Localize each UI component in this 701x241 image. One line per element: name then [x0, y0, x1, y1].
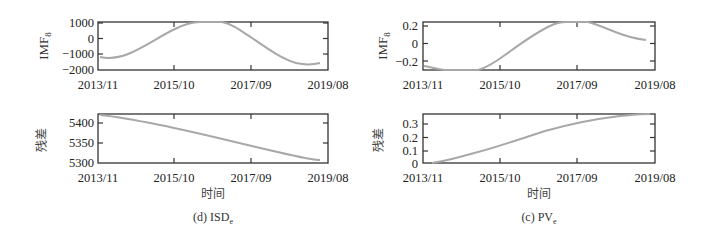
xtick-label: 2019/08	[635, 78, 676, 92]
xtick-label: 2015/10	[480, 171, 521, 185]
ytick-label: 5400	[69, 116, 94, 130]
xlabel-time: 时间	[527, 187, 551, 201]
xtick-label: 2015/10	[154, 171, 195, 185]
panel-c-residual-plot: 0.3 0.2 0.1 0 2013/11 2015/10 2017/09 20…	[372, 114, 675, 201]
xtick-label: 2019/08	[635, 171, 676, 185]
ytick-label: 0.3	[402, 117, 418, 131]
residual-curve	[100, 115, 320, 160]
ytick-label: 5350	[69, 136, 94, 150]
plot-frame	[423, 22, 655, 70]
xtick-label: 2019/08	[308, 78, 349, 92]
svg-text:IMF8: IMF8	[36, 32, 53, 60]
ylabel-residual: 残差	[35, 128, 49, 152]
ytick-label: 0.1	[402, 144, 418, 158]
xtick-label: 2013/11	[78, 171, 119, 185]
panel-d-imf8-plot: 1000 0 −1000 −2000 2013/11 2015/10 2017/…	[36, 16, 348, 92]
ytick-label: 0	[412, 37, 418, 51]
xtick-label: 2015/10	[480, 78, 521, 92]
ytick-label: 5300	[69, 156, 94, 170]
ylabel-imf8: IMF8	[375, 32, 392, 60]
svg-text:IMF8: IMF8	[375, 32, 392, 60]
xlabel-time: 时间	[201, 187, 225, 201]
ytick-label: 0.2	[402, 131, 418, 145]
xtick-label: 2013/11	[403, 171, 444, 185]
xtick-label: 2013/11	[403, 78, 444, 92]
ytick-label: −0.2	[395, 55, 418, 69]
ytick-label: −1000	[62, 47, 94, 61]
imf8-curve	[424, 22, 646, 70]
panel-d-residual-plot: 5400 5350 5300 2013/11 2015/10 2017/09 2…	[35, 114, 348, 201]
ytick-label: 0.2	[402, 19, 418, 33]
caption-d: (d) ISDe	[193, 210, 233, 226]
svg-text:残差: 残差	[372, 128, 386, 152]
ylabel-imf8: IMF8	[36, 32, 53, 60]
residual-curve	[432, 114, 650, 163]
xtick-label: 2017/09	[231, 78, 272, 92]
xtick-label: 2019/08	[308, 171, 349, 185]
panel-c-imf8-plot: 0.2 0 −0.2 2013/11 2015/10 2017/09 2019/…	[375, 19, 675, 92]
ytick-label: −2000	[62, 63, 94, 77]
svg-text:残差: 残差	[35, 128, 49, 152]
ylabel-residual: 残差	[372, 128, 386, 152]
xtick-label: 2017/09	[557, 78, 598, 92]
caption-c: (c) PVe	[521, 210, 557, 226]
imf8-curve	[100, 22, 320, 65]
xtick-label: 2017/09	[557, 171, 598, 185]
ytick-label: 0	[88, 32, 94, 46]
figure-canvas: 1000 0 −1000 −2000 2013/11 2015/10 2017/…	[0, 0, 701, 241]
xtick-label: 2017/09	[231, 171, 272, 185]
ytick-label: 1000	[69, 16, 94, 30]
plot-frame	[423, 114, 655, 163]
xtick-label: 2015/10	[154, 78, 195, 92]
ytick-label: 0	[412, 157, 418, 171]
xtick-label: 2013/11	[78, 78, 119, 92]
